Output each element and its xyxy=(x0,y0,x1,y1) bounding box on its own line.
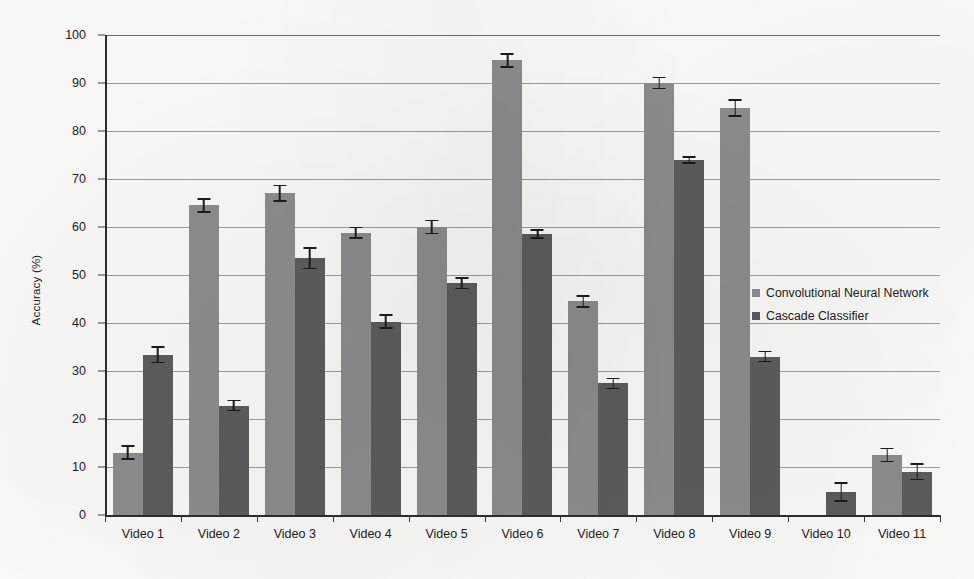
x-axis-tick-label: Video 1 xyxy=(105,521,181,551)
error-bar-cap-lower xyxy=(349,237,362,239)
legend-item: Cascade Classifier xyxy=(752,304,929,327)
bar-slot xyxy=(872,35,902,515)
bar-group xyxy=(409,35,485,515)
bar xyxy=(522,234,552,515)
bar-group xyxy=(636,35,712,515)
error-bar-cap-lower xyxy=(501,66,514,68)
y-axis-tick-mark xyxy=(98,275,105,276)
bar xyxy=(720,108,750,515)
y-axis-tick-mark xyxy=(98,371,105,372)
x-axis-tick-label: Video 4 xyxy=(333,521,409,551)
error-bar xyxy=(881,448,894,462)
error-bar-cap-upper xyxy=(531,229,544,231)
error-bar xyxy=(455,277,468,289)
x-axis-tick-label: Video 6 xyxy=(485,521,561,551)
error-bar xyxy=(911,463,924,480)
bar-slot xyxy=(598,35,628,515)
bar-slot xyxy=(371,35,401,515)
error-bar-stem xyxy=(734,99,736,116)
x-axis-line xyxy=(105,515,941,517)
error-bar-cap-lower xyxy=(531,237,544,239)
error-bar xyxy=(151,346,164,363)
y-axis-tick-mark xyxy=(98,419,105,420)
legend-item-label: Convolutional Neural Network xyxy=(766,286,929,300)
bar-slot xyxy=(522,35,552,515)
legend-item-label: Cascade Classifier xyxy=(766,309,869,323)
error-bar xyxy=(577,295,590,307)
y-axis-tick-mark xyxy=(98,35,105,36)
bar-group xyxy=(485,35,561,515)
error-bar-cap-lower xyxy=(729,115,742,117)
bar xyxy=(295,258,325,515)
bar-slot xyxy=(826,35,856,515)
bar-slot xyxy=(189,35,219,515)
error-bar xyxy=(349,227,362,239)
bar xyxy=(674,160,704,515)
bar xyxy=(644,83,674,515)
error-bar-cap-upper xyxy=(197,198,210,200)
error-bar xyxy=(683,156,696,164)
error-bar-cap-upper xyxy=(653,77,666,79)
bar-slot xyxy=(341,35,371,515)
error-bar-cap-lower xyxy=(379,327,392,329)
error-bar-cap-upper xyxy=(759,351,772,353)
error-bar xyxy=(759,351,772,363)
y-axis-tick-mark xyxy=(98,323,105,324)
error-bar-cap-upper xyxy=(121,445,134,447)
x-axis-tick-label: Video 3 xyxy=(257,521,333,551)
error-bar-cap-lower xyxy=(197,211,210,213)
bar-slot xyxy=(492,35,522,515)
bar-slot xyxy=(750,35,780,515)
bar-chart-figure: Accuracy (%) 0102030405060708090100 Vide… xyxy=(0,0,974,579)
bar xyxy=(447,283,477,515)
error-bar-cap-upper xyxy=(729,99,742,101)
x-axis-tick-label: Video 2 xyxy=(181,521,257,551)
y-axis-tick-mark xyxy=(98,227,105,228)
chart-legend: Convolutional Neural NetworkCascade Clas… xyxy=(752,281,929,327)
error-bar-cap-upper xyxy=(683,156,696,158)
bar xyxy=(872,455,902,515)
error-bar-cap-upper xyxy=(151,346,164,348)
y-axis-tick-mark xyxy=(98,83,105,84)
legend-swatch-icon xyxy=(752,289,760,297)
bar-group xyxy=(864,35,940,515)
bar xyxy=(492,60,522,515)
bar-slot xyxy=(143,35,173,515)
error-bar xyxy=(227,400,240,412)
bar-slot xyxy=(720,35,750,515)
error-bar-stem xyxy=(279,185,281,202)
y-axis-tick-label: 80 xyxy=(72,124,86,138)
bar-slot xyxy=(295,35,325,515)
y-axis-tick-mark xyxy=(98,467,105,468)
error-bar-cap-upper xyxy=(577,295,590,297)
legend-item: Convolutional Neural Network xyxy=(752,281,929,304)
bar xyxy=(750,357,780,515)
y-axis-tick-label: 100 xyxy=(65,28,86,42)
bar-slot xyxy=(265,35,295,515)
legend-swatch-icon xyxy=(752,312,760,320)
bar xyxy=(598,383,628,515)
error-bar-cap-lower xyxy=(653,88,666,90)
bar-groups xyxy=(105,35,940,515)
bar-slot xyxy=(113,35,143,515)
error-bar-cap-upper xyxy=(911,463,924,465)
bar-slot xyxy=(568,35,598,515)
y-axis-tick-label: 40 xyxy=(72,316,86,330)
error-bar xyxy=(425,220,438,234)
error-bar-cap-upper xyxy=(607,378,620,380)
error-bar xyxy=(273,185,286,202)
bar-group xyxy=(333,35,409,515)
x-axis-tick-label: Video 11 xyxy=(864,521,940,551)
error-bar xyxy=(729,99,742,116)
bar xyxy=(113,453,143,515)
y-axis-tick-label: 0 xyxy=(79,508,86,522)
x-axis-tick-mark xyxy=(940,515,941,522)
error-bar xyxy=(303,247,316,269)
bar xyxy=(189,205,219,515)
error-bar-cap-lower xyxy=(683,162,696,164)
y-axis-tick-mark xyxy=(98,515,105,516)
error-bar-cap-upper xyxy=(501,53,514,55)
x-axis-tick-label: Video 8 xyxy=(636,521,712,551)
error-bar-stem xyxy=(309,247,311,269)
bar-group xyxy=(181,35,257,515)
